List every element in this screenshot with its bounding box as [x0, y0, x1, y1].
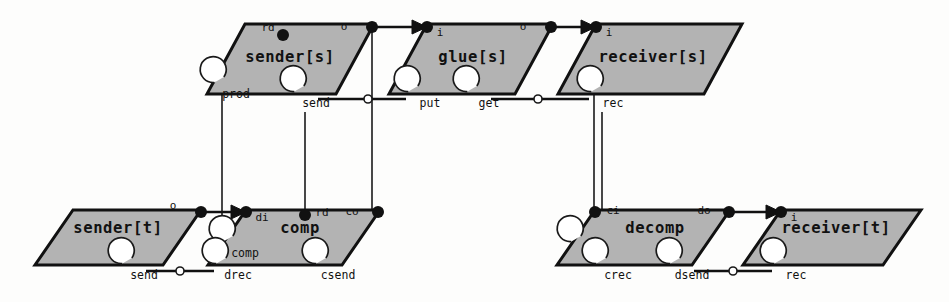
port-dot-glue_s_i[interactable]	[421, 21, 433, 33]
interface-label-put: put	[420, 96, 441, 110]
connector-node-get-rec-link	[534, 95, 542, 103]
port-dot-sender_s_rd[interactable]	[277, 29, 289, 41]
port-dot-decomp_do[interactable]	[723, 206, 735, 218]
port-label-receiver_t_i: i	[791, 211, 798, 224]
port-label-decomp_do: do	[697, 204, 710, 217]
port-dot-comp_co[interactable]	[372, 206, 384, 218]
diagram-canvas: sender[s]glue[s]receiver[s]sender[t]comp…	[0, 0, 949, 302]
port-label-glue_s_o: o	[520, 20, 527, 33]
port-dot-comp_rd[interactable]	[299, 209, 311, 221]
port-label-decomp_ci: ci	[606, 204, 619, 217]
port-label-comp_rd: rd	[315, 206, 328, 219]
port-label-receiver_s_i: i	[606, 26, 613, 39]
component-label-decomp: decomp	[625, 219, 685, 237]
interface-label-csend: csend	[321, 268, 356, 282]
port-label-comp_co: co	[345, 205, 358, 218]
component-diagram: sender[s]glue[s]receiver[s]sender[t]comp…	[0, 0, 949, 302]
port-dot-receiver_t_i[interactable]	[775, 206, 787, 218]
connector-node-send-put-link	[364, 95, 372, 103]
component-label-sender_s: sender[s]	[245, 48, 334, 66]
interface-label-dsend: dsend	[675, 268, 710, 282]
port-label-sender_s_rd: rd	[261, 21, 274, 34]
component-label-comp: comp	[280, 219, 320, 237]
port-dot-decomp_ci[interactable]	[589, 206, 601, 218]
port-label-sender_t_o: o	[170, 199, 177, 212]
component-label-glue_s: glue[s]	[438, 48, 508, 66]
port-dot-sender_t_o[interactable]	[195, 206, 207, 218]
connector-node-sendt-drec-link	[176, 267, 184, 275]
port-label-comp_di: di	[255, 211, 268, 224]
interface-label-get: get	[479, 96, 500, 110]
component-label-receiver_t: receiver[t]	[781, 219, 890, 237]
component-label-receiver_s: receiver[s]	[598, 48, 707, 66]
component-label-sender_t: sender[t]	[73, 219, 162, 237]
interface-label-send_s: send	[302, 96, 330, 110]
port-dot-glue_s_o[interactable]	[545, 21, 557, 33]
port-dot-receiver_s_i[interactable]	[590, 21, 602, 33]
interface-label-rec_s: rec	[603, 96, 624, 110]
interface-label-comp_i: comp	[231, 246, 259, 260]
port-label-sender_s_o: o	[341, 20, 348, 33]
connector-node-dsend-rect-link	[729, 267, 737, 275]
port-dot-sender_s_o[interactable]	[366, 21, 378, 33]
interface-label-send_t: send	[130, 268, 158, 282]
port-dot-comp_di[interactable]	[240, 206, 252, 218]
interface-label-rec_t: rec	[786, 268, 807, 282]
port-label-glue_s_i: i	[437, 26, 444, 39]
interface-label-crec: crec	[604, 268, 632, 282]
interface-label-drec: drec	[224, 268, 252, 282]
interface-label-prod: prod	[222, 87, 250, 101]
component-layer: sender[s]glue[s]receiver[s]sender[t]comp…	[35, 24, 921, 265]
